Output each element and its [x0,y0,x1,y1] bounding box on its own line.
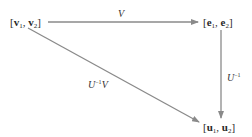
node-e1-e2: [e1, e2] [203,16,233,28]
bracket-close: ] [37,16,41,28]
label-text: V [118,8,124,19]
node-u1-u2: [u1, u2] [203,121,235,133]
label-V: V [118,8,124,19]
bracket-close: ] [231,121,235,133]
arrow-v-to-u [28,28,199,122]
node-v1-v2: [v1, v2] [10,16,41,28]
label-U-inverse-V: U−1V [88,79,108,90]
label-suffix: V [102,79,108,90]
label-U-inverse: U−1 [227,72,241,83]
bracket-close: ] [229,16,233,28]
superscript: −1 [234,72,240,78]
